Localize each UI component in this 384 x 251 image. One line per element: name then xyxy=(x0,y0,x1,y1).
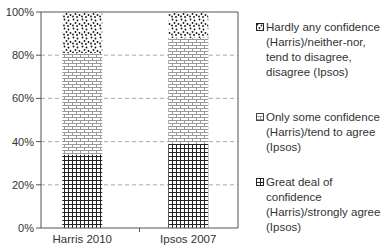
legend-label: Great deal of confidence (Harris)/strong… xyxy=(266,175,384,235)
bar-segment-grid xyxy=(62,155,102,228)
x-category-label: Harris 2010 xyxy=(53,233,112,245)
dots-swatch-icon xyxy=(256,23,264,31)
y-tick-label: 20% xyxy=(12,179,34,191)
legend-label: Hardly any confidence (Harris)/neither-n… xyxy=(266,20,384,80)
bar-segment-dots xyxy=(62,12,102,53)
legend-label: Only some confidence (Harris)/tend to ag… xyxy=(266,110,384,155)
grid-swatch-icon xyxy=(256,178,264,186)
plot-area: 0%20%40%60%80%100%Harris 2010Ipsos 2007 xyxy=(6,6,238,245)
x-category-label: Ipsos 2007 xyxy=(160,233,216,245)
y-tick-label: 0% xyxy=(18,222,34,234)
bar-segment-dots xyxy=(168,12,208,38)
bar-segment-brick xyxy=(62,53,102,155)
y-tick-label: 100% xyxy=(6,6,34,18)
y-tick-label: 80% xyxy=(12,49,34,61)
bar-segment-brick xyxy=(168,38,208,144)
bar-segment-grid xyxy=(168,144,208,228)
y-tick-label: 60% xyxy=(12,92,34,104)
y-tick-label: 40% xyxy=(12,136,34,148)
brick-swatch-icon xyxy=(256,113,264,121)
